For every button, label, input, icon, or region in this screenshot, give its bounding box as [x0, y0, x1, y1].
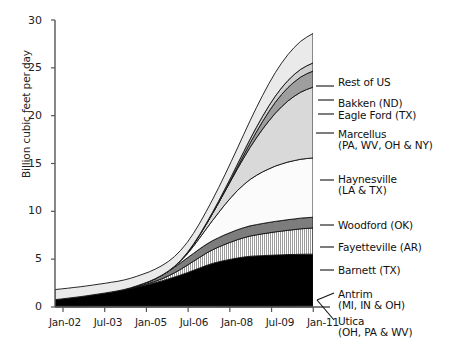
legend-label-fayetteville: Fayetteville (AR) [338, 242, 422, 254]
legend-label-barnett: Barnett (TX) [338, 265, 400, 277]
callout-line-antrim [317, 293, 334, 300]
legend-sublabel-haynesville: (LA & TX) [338, 185, 387, 197]
legend-sublabel-marcellus: (PA, WV, OH & NY) [338, 140, 433, 152]
chart-figure: Billion cubic feet per day 30 25 20 15 1… [0, 0, 452, 347]
legend-label-eagle-ford: Eagle Ford (TX) [338, 110, 416, 122]
legend-label-bakken: Bakken (ND) [338, 98, 402, 110]
legend-label-rest-of-us: Rest of US [338, 77, 391, 89]
legend-label-woodford: Woodford (OK) [338, 220, 413, 232]
legend-sublabel-utica: (OH, PA & WV) [338, 327, 412, 339]
callout-line-utica [317, 300, 334, 320]
x-axis-ticks [63, 307, 313, 312]
legend-sublabel-antrim: (MI, IN & OH) [338, 300, 405, 312]
legend-callout-lines [316, 86, 334, 320]
